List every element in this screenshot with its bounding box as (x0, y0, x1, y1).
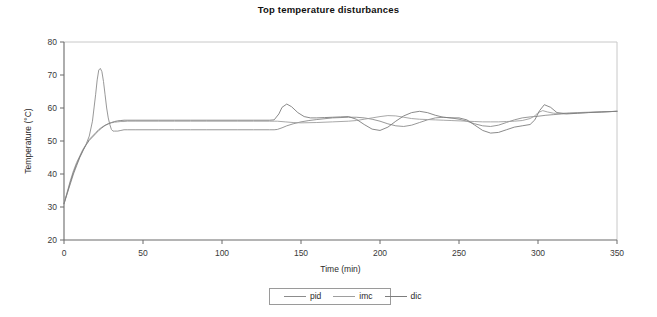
legend-label: dic (411, 292, 422, 301)
x-tick-label: 200 (373, 248, 387, 258)
legend-line-icon (385, 296, 407, 297)
axis-titles: Time (min)Temperature (°C) (23, 108, 361, 274)
y-tick-label: 70 (48, 70, 58, 80)
chart-container: Top temperature disturbances 20304050607… (0, 0, 657, 317)
y-tick-label: 60 (48, 103, 58, 113)
plot-area: 20304050607080050100150200250300350 Time… (0, 0, 657, 317)
y-tick-label: 50 (48, 136, 58, 146)
plot-frame (64, 42, 617, 240)
y-tick-label: 40 (48, 169, 58, 179)
legend-line-icon (333, 296, 355, 297)
legend-label: pid (310, 292, 321, 301)
y-tick-label: 30 (48, 202, 58, 212)
x-tick-label: 250 (452, 248, 466, 258)
series-line-imc (64, 111, 617, 204)
x-tick-label: 0 (62, 248, 67, 258)
y-tick-label: 20 (48, 235, 58, 245)
x-tick-label: 50 (138, 248, 148, 258)
x-tick-label: 300 (531, 248, 545, 258)
axis-tick-labels: 20304050607080050100150200250300350 (48, 37, 625, 258)
y-axis-title: Temperature (°C) (23, 108, 33, 173)
legend-label: imc (359, 292, 372, 301)
series-line-dic (64, 104, 617, 204)
x-tick-label: 350 (610, 248, 624, 258)
legend-item-imc[interactable]: imc (333, 292, 372, 301)
legend-line-icon (284, 296, 306, 297)
legend-item-pid[interactable]: pid (284, 292, 321, 301)
x-tick-label: 100 (215, 248, 229, 258)
series-line-pid (64, 68, 617, 203)
legend-item-dic[interactable]: dic (385, 292, 422, 301)
y-tick-label: 80 (48, 37, 58, 47)
x-axis-title: Time (min) (320, 264, 360, 274)
data-series-group (64, 68, 617, 203)
x-tick-label: 150 (294, 248, 308, 258)
chart-legend: pidimcdic (269, 288, 391, 305)
axis-ticks (60, 42, 617, 244)
